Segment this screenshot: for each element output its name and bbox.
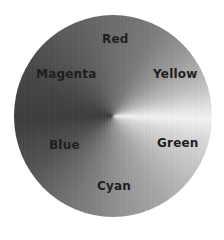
label-green: Green: [157, 137, 199, 150]
label-yellow: Yellow: [153, 68, 197, 81]
label-magenta: Magenta: [36, 68, 97, 81]
label-cyan: Cyan: [97, 180, 131, 193]
label-red: Red: [102, 33, 129, 46]
label-blue: Blue: [49, 139, 80, 152]
